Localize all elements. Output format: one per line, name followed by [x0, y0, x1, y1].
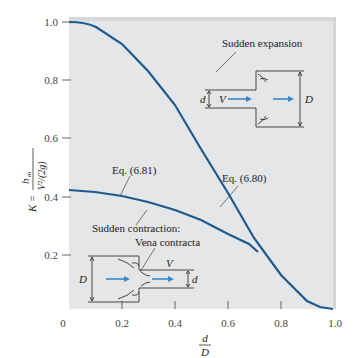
- x-tick-0.2: 0.2: [115, 317, 129, 329]
- chart: 1.0 0.8 0.6 0.4 0.2 0 0.2 0.4 0.6 0.8 1.…: [0, 0, 358, 358]
- svg-text:K =: K =: [26, 194, 38, 213]
- x-tick-1.0: 1.0: [328, 317, 342, 329]
- y-axis-label: K = h m V²/(2g): [19, 148, 48, 213]
- contraction-D-label: D: [78, 273, 87, 285]
- y-tick-0.6: 0.6: [44, 132, 58, 144]
- x-tick-0: 0: [60, 317, 66, 329]
- y-tick-0.4: 0.4: [44, 191, 58, 203]
- x-tick-0.6: 0.6: [221, 317, 235, 329]
- vena-contracta-label: Vena contracta: [135, 236, 200, 248]
- sudden-contraction-label: Sudden contraction:: [92, 222, 180, 234]
- expansion-D-label: D: [304, 93, 313, 105]
- x-axis-label: d D: [199, 332, 211, 358]
- contraction-d-label: d: [192, 273, 198, 285]
- y-axis: 1.0 0.8 0.6 0.4 0.2: [44, 16, 71, 261]
- svg-text:D: D: [200, 346, 209, 358]
- x-tick-0.4: 0.4: [168, 317, 182, 329]
- y-tick-0.8: 0.8: [44, 74, 58, 86]
- y-tick-1.0: 1.0: [44, 16, 58, 28]
- svg-text:d: d: [202, 332, 208, 344]
- svg-text:V²/(2g): V²/(2g): [36, 161, 48, 190]
- eq-6-81-label: Eq. (6.81): [112, 164, 157, 177]
- expansion-d-label: d: [200, 93, 206, 105]
- eq-6-80-label: Eq. (6.80): [222, 172, 267, 185]
- sudden-expansion-label: Sudden expansion: [222, 37, 303, 49]
- svg-text:h: h: [19, 178, 31, 184]
- svg-text:m: m: [25, 172, 33, 177]
- y-tick-0.2: 0.2: [44, 249, 58, 261]
- x-tick-0.8: 0.8: [274, 317, 288, 329]
- plot-area: [69, 17, 336, 309]
